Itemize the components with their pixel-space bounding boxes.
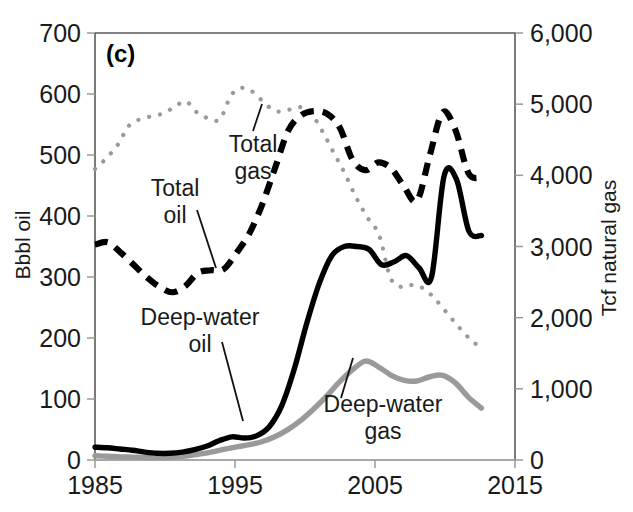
left-tick-label: 600 [39, 80, 81, 108]
chart-svg: 0100200300400500600700 01,0002,0003,0004… [0, 0, 633, 512]
label-deep-water-oil-line1: Deep-water [141, 304, 260, 330]
right-axis-ticks: 01,0002,0003,0004,0005,0006,000 [515, 19, 593, 474]
left-tick-label: 500 [39, 141, 81, 169]
panel-label: (c) [106, 40, 135, 67]
plot-frame [95, 33, 515, 460]
right-tick-label: 6,000 [530, 19, 593, 47]
left-tick-label: 200 [39, 324, 81, 352]
left-tick-label: 400 [39, 202, 81, 230]
series-path [95, 111, 481, 292]
label-total-gas-line2: gas [234, 158, 271, 184]
label-deep-water-gas-line2: gas [364, 418, 401, 444]
label-total-gas-line1: Total [229, 131, 278, 157]
label-deep-water-oil-line2: oil [188, 331, 211, 357]
label-total-oil-line2: oil [163, 202, 186, 228]
left-axis-ticks: 0100200300400500600700 [39, 19, 95, 474]
right-tick-label: 1,000 [530, 375, 593, 403]
leader-total-gas [253, 104, 262, 131]
series-total-oil [95, 111, 481, 292]
left-tick-label: 700 [39, 19, 81, 47]
bottom-axis-ticks: 1985199520052015 [67, 460, 543, 499]
leader-deep-water-oil [222, 342, 243, 421]
bottom-tick-label: 1985 [67, 471, 123, 499]
right-tick-label: 3,000 [530, 233, 593, 261]
left-tick-label: 0 [67, 446, 81, 474]
right-axis-title: Tcf natural gas [597, 180, 620, 317]
chart-figure: 0100200300400500600700 01,0002,0003,0004… [0, 0, 633, 512]
right-tick-label: 5,000 [530, 90, 593, 118]
right-tick-label: 0 [530, 446, 544, 474]
leader-total-oil [197, 210, 216, 268]
label-deep-water-gas-line1: Deep-water [324, 391, 443, 417]
right-tick-label: 2,000 [530, 304, 593, 332]
right-tick-label: 4,000 [530, 161, 593, 189]
bottom-tick-label: 1995 [207, 471, 263, 499]
bottom-tick-label: 2015 [487, 471, 543, 499]
label-total-oil-line1: Total [151, 175, 200, 201]
left-axis-title: Bbbl oil [11, 211, 34, 280]
left-tick-label: 100 [39, 385, 81, 413]
bottom-tick-label: 2005 [347, 471, 403, 499]
left-tick-label: 300 [39, 263, 81, 291]
